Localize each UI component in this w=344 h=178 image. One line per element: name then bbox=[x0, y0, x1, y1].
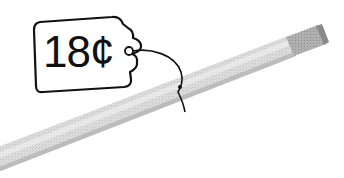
pencil-price-illustration: 18¢ bbox=[0, 0, 344, 178]
price-label: 18¢ bbox=[43, 27, 133, 77]
string-knot bbox=[178, 85, 182, 89]
